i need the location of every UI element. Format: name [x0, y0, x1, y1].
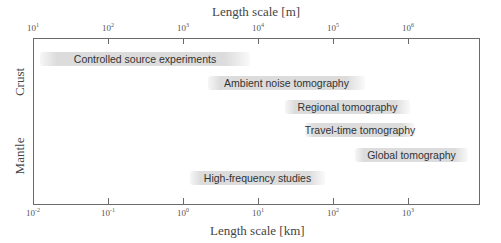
range-bar: Ambient noise tomography	[208, 76, 365, 90]
bottom-tick-label: 100	[177, 207, 189, 218]
range-bar-label: High-frequency studies	[204, 172, 311, 184]
range-bar: Regional tomography	[285, 100, 410, 114]
y-label-crust: Crust	[12, 62, 28, 102]
range-bar-label: Controlled source experiments	[74, 53, 216, 65]
bottom-tick-label: 10-1	[101, 207, 115, 218]
range-bar: High-frequency studies	[190, 171, 325, 185]
range-bar: Travel-time tomography	[305, 123, 415, 137]
range-bar-label: Global tomography	[367, 149, 456, 161]
y-label-mantle: Mantle	[12, 136, 28, 176]
top-tick-label: 105	[327, 22, 339, 33]
range-bar-label: Ambient noise tomography	[224, 77, 349, 89]
bottom-tick-label: 102	[327, 207, 339, 218]
range-bar: Controlled source experiments	[40, 52, 250, 66]
top-tick-label: 103	[177, 22, 189, 33]
range-bar-label: Regional tomography	[298, 101, 398, 113]
range-bar-label: Travel-time tomography	[305, 124, 415, 136]
top-axis-title: Length scale [m]	[212, 4, 300, 20]
top-tick-label: 106	[402, 22, 414, 33]
bottom-tick-label: 10-2	[26, 207, 40, 218]
bottom-tick-label: 101	[252, 207, 264, 218]
top-tick-label: 104	[252, 22, 264, 33]
top-tick-label: 102	[102, 22, 114, 33]
bottom-tick-label: 103	[402, 207, 414, 218]
range-bar: Global tomography	[355, 148, 468, 162]
top-tick-label: 101	[27, 22, 39, 33]
bottom-axis-title: Length scale [km]	[210, 223, 305, 239]
